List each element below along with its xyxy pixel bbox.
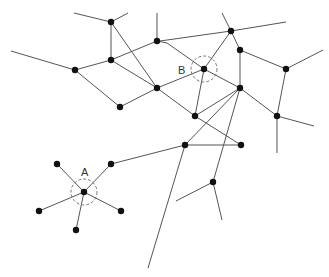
edge: [277, 69, 286, 116]
edge: [277, 116, 314, 126]
edge: [286, 50, 323, 69]
node-b: [201, 66, 207, 72]
node-label-b: B: [178, 64, 185, 76]
edge: [75, 60, 111, 70]
edge: [231, 22, 286, 31]
edges-layer: [11, 13, 323, 268]
edge: [11, 51, 75, 70]
edge: [204, 31, 231, 69]
edge: [39, 192, 84, 211]
edge: [176, 182, 213, 201]
edge: [111, 22, 157, 88]
node-a: [81, 189, 87, 195]
edge: [76, 192, 84, 230]
node-n6: [154, 85, 160, 91]
edge: [111, 145, 185, 164]
edge: [111, 60, 157, 88]
edge: [240, 50, 286, 69]
edge: [57, 164, 84, 192]
edge: [84, 192, 121, 211]
node-n9: [237, 85, 243, 91]
edge: [160, 31, 231, 41]
edge: [74, 13, 111, 22]
node-n10: [283, 66, 289, 72]
highlight-rings-layer: [71, 56, 217, 205]
node-n13: [182, 142, 188, 148]
edge: [240, 88, 277, 116]
node-n2: [108, 57, 114, 63]
node-n5: [154, 38, 160, 44]
nodes-layer: [36, 19, 289, 233]
edge: [157, 88, 195, 116]
node-n1: [108, 19, 114, 25]
node-n12: [274, 113, 280, 119]
edge: [167, 43, 204, 69]
node-a1: [54, 161, 60, 167]
network-diagram: AB: [0, 0, 329, 277]
edge: [195, 116, 241, 145]
node-n3: [72, 67, 78, 73]
edge: [195, 69, 204, 116]
edge: [75, 70, 120, 107]
edge: [213, 182, 222, 220]
node-a2: [108, 161, 114, 167]
node-label-a: A: [81, 166, 89, 178]
node-a3: [36, 208, 42, 214]
node-n7: [228, 28, 234, 34]
node-n14: [238, 142, 244, 148]
node-n15: [210, 179, 216, 185]
node-a4: [118, 208, 124, 214]
edge: [148, 145, 185, 268]
edge: [204, 69, 240, 88]
labels-layer: AB: [81, 64, 185, 178]
edge: [111, 41, 157, 60]
edge: [120, 88, 157, 107]
node-n8: [237, 47, 243, 53]
node-n11: [192, 113, 198, 119]
node-a5: [73, 227, 79, 233]
node-n4: [117, 104, 123, 110]
